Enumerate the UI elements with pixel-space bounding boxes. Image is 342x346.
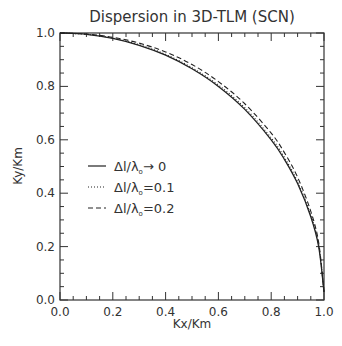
x-tick-label: 1.0 [314,305,333,319]
y-tick-label: 0.2 [36,240,55,254]
data-curves [60,33,324,292]
y-tick-label: 1.0 [36,26,55,40]
curve-dotted [60,33,324,292]
curve-solid [60,33,324,292]
y-tick-labels: 0.00.20.40.60.81.0 [36,26,55,307]
x-tick-label: 0.6 [209,305,228,319]
x-tick-label: 0.2 [103,305,122,319]
curve-dashed [60,33,324,292]
legend: Δl/λo→ 0Δl/λo=0.1Δl/λo=0.2 [88,159,174,218]
legend-label: Δl/λo=0.1 [114,180,174,197]
y-tick-label: 0.6 [36,133,55,147]
x-axis-label: Kx/Km [173,317,212,331]
y-axis-label: Ky/Km [11,147,25,185]
legend-label: Δl/λo→ 0 [114,159,166,176]
y-tick-label: 0.8 [36,79,55,93]
legend-label: Δl/λo=0.2 [114,201,174,218]
dispersion-chart: Dispersion in 3D-TLM (SCN) 0.00.20.40.60… [0,0,342,346]
x-tick-label: 0.0 [50,305,69,319]
x-tick-label: 0.8 [262,305,281,319]
chart-title: Dispersion in 3D-TLM (SCN) [89,8,295,26]
y-tick-label: 0.0 [36,293,55,307]
y-tick-label: 0.4 [36,186,55,200]
